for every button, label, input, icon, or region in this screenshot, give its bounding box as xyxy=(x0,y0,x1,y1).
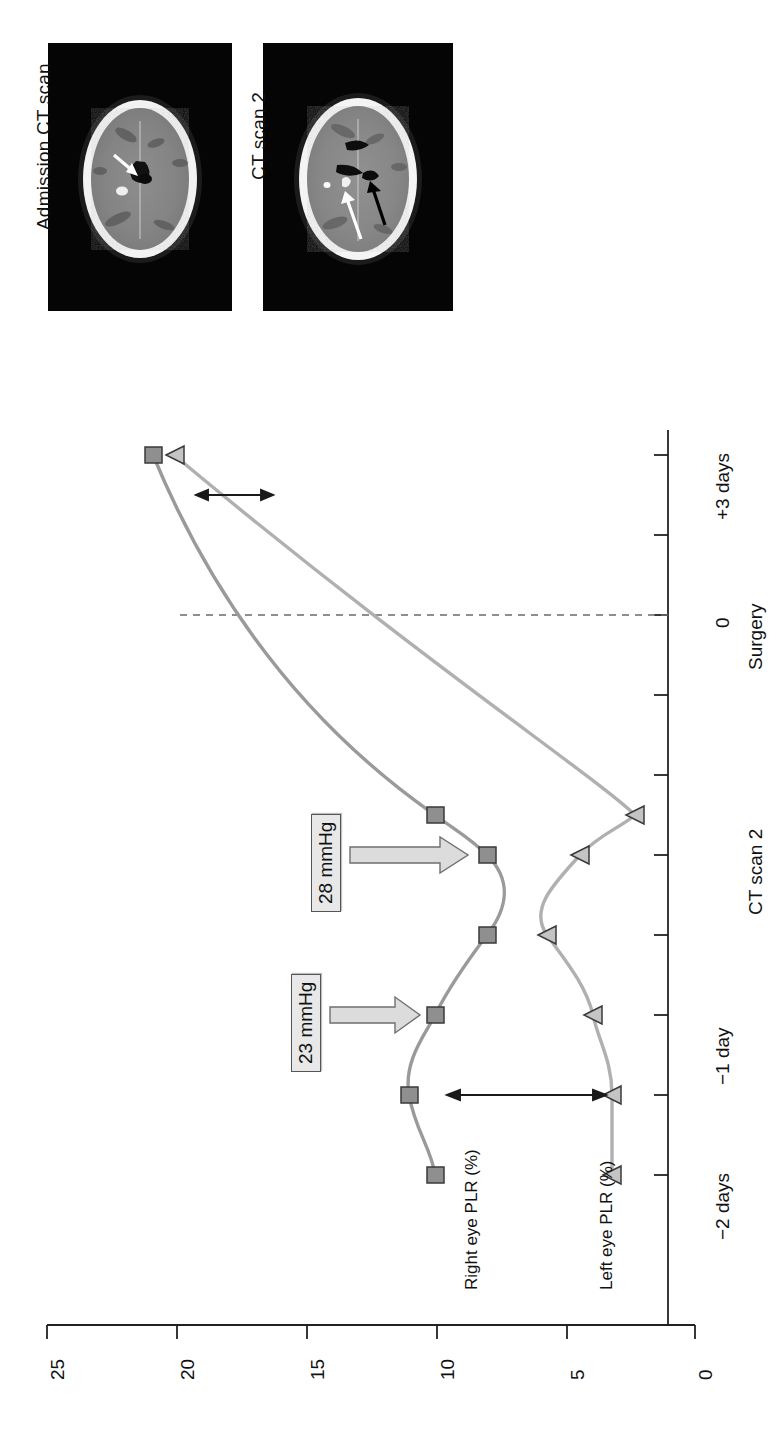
y-tick-20: 20 xyxy=(177,1359,199,1380)
ct-panel-admission xyxy=(48,43,232,311)
y-tick-0: 0 xyxy=(695,1369,717,1380)
chart-svg xyxy=(0,360,781,1432)
left-eye-series-line xyxy=(174,455,635,1175)
right-eye-plr-marker-6 xyxy=(145,447,162,463)
anisocoria-gap-arrow-pre xyxy=(447,1090,606,1100)
right-eye-plr-marker-1 xyxy=(401,1087,418,1103)
plr-timeline-chart: 25 20 15 10 5 0 −2 days −1 day CT scan 2… xyxy=(0,360,781,1432)
y-tick-25: 25 xyxy=(47,1359,69,1380)
x-label-minus-2-days: −2 days xyxy=(712,1173,734,1240)
x-label-plus-3-days: +3 days xyxy=(712,453,734,520)
y-tick-10: 10 xyxy=(437,1359,459,1380)
right-eye-plr-marker-5 xyxy=(427,807,444,823)
ct-panel-admission-label: Admission CT scan xyxy=(33,63,55,230)
ct-image-scan2 xyxy=(263,43,453,311)
x-label-minus-1-day: −1 day xyxy=(712,1027,734,1085)
ct-image-admission xyxy=(48,43,232,311)
y-tick-15: 15 xyxy=(307,1359,329,1380)
left-eye-series-label: Left eye PLR (%) xyxy=(597,1161,617,1290)
callout-28-mmhg: 28 mmHg xyxy=(311,814,341,912)
anisocoria-gap-arrow-post xyxy=(196,490,273,500)
right-eye-plr-marker-2 xyxy=(427,1007,444,1023)
x-label-ct-scan-2: CT scan 2 xyxy=(745,829,767,915)
y-tick-5: 5 xyxy=(567,1369,589,1380)
right-eye-plr-marker-0 xyxy=(427,1167,444,1183)
left-eye-markers xyxy=(166,446,644,1184)
x-label-surgery: Surgery xyxy=(745,603,767,670)
ct-panel-scan2-label: CT scan 2 xyxy=(248,92,270,180)
callout-arrow-28 xyxy=(350,837,468,873)
y-axis xyxy=(47,1325,695,1339)
x-label-zero: 0 xyxy=(712,617,734,628)
x-axis xyxy=(654,430,668,1325)
callout-23-mmhg: 23 mmHg xyxy=(291,974,321,1072)
ct-panel-scan2 xyxy=(263,43,453,311)
left-eye-plr-marker-3 xyxy=(538,926,556,944)
right-eye-plr-marker-3 xyxy=(479,927,496,943)
callout-arrow-23 xyxy=(330,997,420,1033)
right-eye-series-label: Right eye PLR (%) xyxy=(462,1149,482,1290)
right-eye-plr-marker-4 xyxy=(479,847,496,863)
left-eye-plr-marker-6 xyxy=(166,446,184,464)
